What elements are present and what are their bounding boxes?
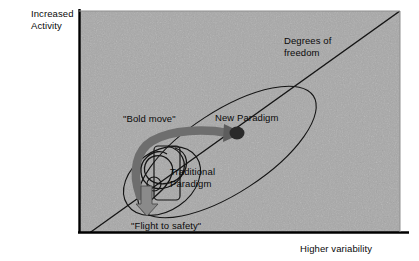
bold-move-label: "Bold move"	[123, 113, 176, 125]
x-axis-label: Higher variability	[300, 243, 372, 255]
degrees-of-freedom-label: Degrees offreedom	[284, 35, 331, 58]
traditional-paradigm-label: TraditionalParadigm	[170, 166, 215, 189]
diagram-svg	[0, 0, 419, 261]
new-paradigm-node	[230, 127, 245, 140]
traditional-paradigm-line1: Traditional	[170, 166, 215, 177]
traditional-paradigm-line2: Paradigm	[170, 178, 211, 189]
degrees-of-freedom-line2: freedom	[284, 47, 320, 58]
y-axis-label-line1: Increased	[31, 8, 74, 19]
diagram-canvas: IncreasedActivity Higher variability Deg…	[0, 0, 419, 261]
new-paradigm-label: New Paradigm	[215, 112, 279, 124]
flight-to-safety-label: "Flight to safety"	[131, 220, 201, 232]
y-axis-label-line2: Activity	[31, 20, 62, 31]
degrees-of-freedom-line1: Degrees of	[284, 35, 331, 46]
y-axis-label: IncreasedActivity	[31, 8, 74, 31]
